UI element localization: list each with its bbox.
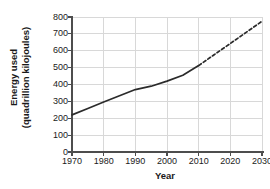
energy-used-line-chart: Energy used (quadrillion kilojoules) 010… bbox=[0, 0, 270, 189]
plot-area bbox=[0, 0, 270, 189]
grid-lines bbox=[72, 17, 262, 152]
x-axis-title: Year bbox=[72, 170, 258, 181]
